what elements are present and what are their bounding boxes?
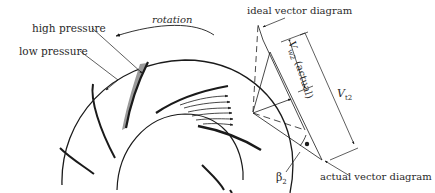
beta-dot (305, 142, 309, 146)
label-high-pressure: high pressure (32, 23, 106, 34)
blade (202, 165, 224, 190)
label-beta2: β2 (276, 172, 287, 186)
blade (156, 86, 228, 113)
label-rotation: rotation (152, 15, 192, 25)
blade (60, 148, 94, 174)
vt2-sub: t2 (345, 94, 352, 102)
blade-speed (253, 113, 322, 160)
vt2-ext-top (300, 32, 308, 35)
ideal-leader (263, 18, 285, 27)
blade (198, 126, 261, 150)
ideal-side (258, 25, 263, 40)
vt2-main: V (337, 87, 345, 100)
vt2-ext-bottom (330, 148, 358, 160)
label-ideal-vector-diagram: ideal vector diagram (247, 6, 352, 16)
blade (92, 84, 115, 158)
blade-high-pressure (126, 62, 148, 128)
label-vt2: Vt2 (337, 88, 352, 102)
label-actual-vector-diagram: actual vector diagram (320, 172, 432, 182)
ideal-dashed-vertical (253, 25, 258, 112)
rotation-arrow (116, 25, 214, 36)
label-low-pressure: low pressure (19, 46, 88, 57)
impeller-hub (117, 114, 243, 190)
impeller-outer-rim (62, 60, 293, 193)
flow-arrows (180, 96, 233, 125)
dashed-ideal-bottom (253, 113, 305, 130)
blade-fragment (230, 190, 232, 193)
beta-sub: 2 (282, 178, 286, 186)
